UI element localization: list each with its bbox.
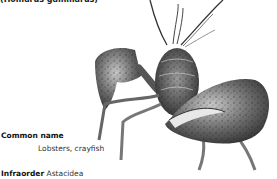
common-name-value: Lobsters, crayfish: [38, 144, 104, 153]
infraorder-value: Astacidea: [47, 169, 84, 178]
infraorder-label: Infraorder: [1, 169, 44, 178]
common-name-label: Common name: [1, 131, 64, 140]
lobster-illustration: [95, 0, 277, 179]
infraorder-row: Infraorder Astacidea: [1, 169, 83, 178]
species-caption: (Homarus gammarus): [0, 0, 98, 4]
